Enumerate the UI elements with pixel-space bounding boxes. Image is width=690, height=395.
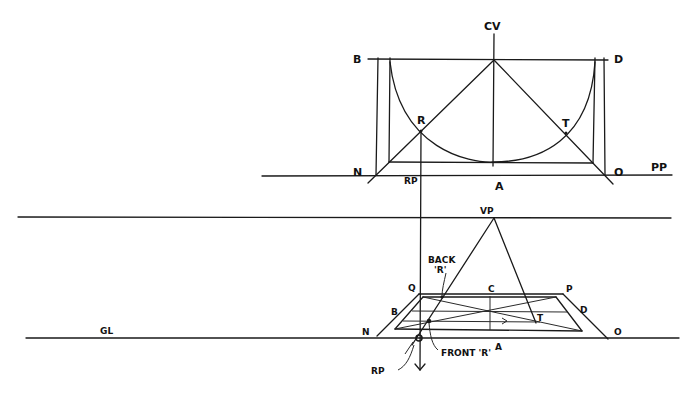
label-q: Q — [408, 283, 416, 293]
vp-ray-left — [412, 218, 494, 345]
label-pp: PP — [651, 161, 667, 174]
plan-view: CV B D R T N O A RP PP — [262, 20, 672, 370]
label-c: C — [488, 284, 495, 294]
label-back: BACK — [428, 255, 456, 265]
persp-outer-right — [563, 294, 608, 339]
label-vp: VP — [480, 206, 494, 216]
persp-front-r-line — [403, 321, 540, 322]
label-back-r: 'R' — [434, 265, 446, 275]
label-r: R — [417, 114, 426, 127]
plan-inner-left-edge — [389, 58, 390, 162]
picture-plane-line — [262, 175, 672, 176]
label-front-r: FRONT 'R' — [441, 348, 491, 358]
label-d-persp: D — [580, 305, 587, 315]
vp-ray-right — [494, 218, 536, 323]
plan-top-line — [368, 59, 608, 60]
front-r-point — [427, 319, 431, 323]
persp-inner-bottom — [395, 329, 582, 331]
r-projection-line — [420, 131, 421, 370]
label-cv: CV — [484, 20, 501, 33]
label-rp: RP — [404, 176, 418, 186]
point-t-marker — [565, 132, 568, 135]
perspective-diagram: CV B D R T N O A RP PP — [0, 0, 690, 395]
label-n: N — [353, 166, 362, 179]
label-rp-persp: RP — [371, 366, 385, 376]
horizon-line — [18, 217, 671, 218]
label-a-persp: A — [495, 342, 502, 352]
point-r-marker — [420, 130, 423, 133]
label-d: D — [614, 53, 623, 66]
rp-leader — [398, 345, 414, 370]
label-a: A — [495, 180, 504, 193]
persp-diagonal-1 — [423, 297, 582, 331]
center-of-vision-axis — [493, 34, 494, 166]
label-n-persp: N — [362, 327, 370, 337]
label-p: P — [566, 284, 573, 294]
plan-outer-left-edge — [376, 58, 378, 175]
label-b: B — [353, 53, 361, 66]
label-b-persp: B — [391, 307, 398, 317]
label-gl: GL — [100, 326, 113, 336]
label-o-persp: O — [614, 327, 622, 337]
label-o: O — [614, 166, 623, 179]
perspective-view: VP BACK 'R' Q C P B D T N O A FRONT 'R' … — [26, 206, 679, 376]
arrow-icon — [502, 318, 507, 324]
plan-outer-right-edge — [604, 58, 605, 175]
label-t-persp: T — [537, 313, 544, 323]
front-r-leader — [429, 323, 438, 350]
plan-diagonal-left — [368, 60, 494, 183]
label-t: T — [562, 117, 570, 130]
